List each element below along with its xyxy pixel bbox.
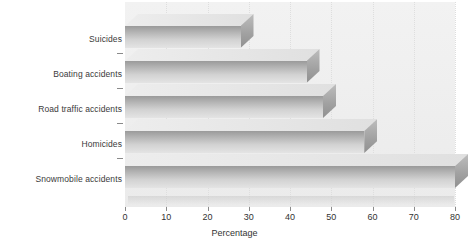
bar bbox=[125, 84, 336, 106]
x-tick-label: 70 bbox=[409, 212, 419, 222]
category-label: Boating accidents bbox=[4, 69, 122, 79]
x-tick-label: 50 bbox=[326, 212, 336, 222]
bar bbox=[125, 14, 254, 36]
x-tick-label: 40 bbox=[285, 212, 295, 222]
x-tick bbox=[249, 207, 250, 211]
x-tick-label: 10 bbox=[161, 212, 171, 222]
bar-front-face bbox=[125, 166, 455, 188]
bar-top-face bbox=[125, 49, 320, 61]
bar bbox=[125, 154, 468, 176]
bar-top-face bbox=[125, 84, 336, 96]
x-tick bbox=[373, 207, 374, 211]
x-tick bbox=[208, 207, 209, 211]
bar-front-face bbox=[125, 96, 323, 118]
x-tick-label: 20 bbox=[202, 212, 212, 222]
x-tick bbox=[125, 207, 126, 211]
x-tick bbox=[414, 207, 415, 211]
bar-chart: SuicidesBoating accidentsRoad traffic ac… bbox=[0, 0, 469, 249]
category-label: Road traffic accidents bbox=[4, 104, 122, 114]
bar-front-face bbox=[125, 61, 307, 83]
bar-top-face bbox=[125, 14, 254, 26]
bar bbox=[125, 119, 377, 141]
bar-top-face bbox=[125, 154, 468, 166]
x-tick-label: 30 bbox=[244, 212, 254, 222]
bar-front-face bbox=[125, 131, 364, 153]
x-axis-title: Percentage bbox=[0, 228, 469, 238]
bar-front-face bbox=[125, 26, 241, 48]
category-label: Homicides bbox=[4, 139, 122, 149]
value-axis: 01020304050607080 bbox=[125, 207, 455, 208]
bar bbox=[125, 49, 320, 71]
x-tick-label: 0 bbox=[122, 212, 127, 222]
category-axis: SuicidesBoating accidentsRoad traffic ac… bbox=[0, 0, 122, 249]
category-label: Suicides bbox=[4, 34, 122, 44]
x-tick-label: 80 bbox=[450, 212, 460, 222]
category-tick bbox=[117, 158, 123, 159]
category-tick bbox=[117, 123, 123, 124]
x-tick bbox=[455, 207, 456, 211]
category-tick bbox=[117, 53, 123, 54]
category-tick bbox=[117, 88, 123, 89]
x-tick bbox=[166, 207, 167, 211]
x-tick bbox=[331, 207, 332, 211]
bar-top-face bbox=[125, 119, 377, 131]
x-tick-label: 60 bbox=[367, 212, 377, 222]
floor-shadow bbox=[128, 196, 454, 205]
x-tick bbox=[290, 207, 291, 211]
category-label: Snowmobile accidents bbox=[4, 174, 122, 184]
